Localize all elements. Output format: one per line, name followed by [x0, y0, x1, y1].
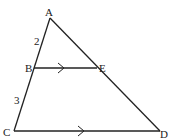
vertex-label-B: B	[25, 62, 32, 74]
segment-AD	[50, 18, 160, 131]
triangle-diagram: A B E C D 2 3	[0, 0, 170, 139]
vertex-label-A: A	[45, 6, 53, 18]
vertex-label-C: C	[3, 126, 10, 138]
vertex-label-E: E	[99, 62, 106, 74]
length-label-BC: 3	[14, 94, 20, 106]
segment-AC	[14, 18, 50, 131]
length-label-AB: 2	[34, 35, 40, 47]
vertex-label-D: D	[160, 128, 168, 139]
